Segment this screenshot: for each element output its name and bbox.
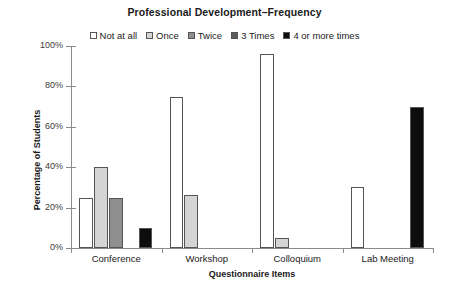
legend-label: 3 Times [241, 30, 274, 41]
bar [410, 107, 424, 248]
bar [139, 228, 153, 248]
legend-label: Not at all [100, 30, 138, 41]
y-tick-label: 20% [45, 202, 63, 212]
bar [275, 238, 289, 248]
chart-legend: Not at allOnceTwice3 Times4 or more time… [0, 30, 449, 41]
y-tick-label: 100% [40, 40, 63, 50]
legend-swatch-icon [90, 32, 97, 39]
x-category-label: Conference [71, 253, 162, 264]
x-category-label: Colloquium [252, 253, 343, 264]
bar [170, 97, 184, 249]
y-tick-mark [66, 208, 76, 209]
legend-swatch-icon [146, 32, 153, 39]
legend-item[interactable]: 3 Times [231, 30, 274, 41]
legend-label: Once [156, 30, 179, 41]
y-tick-label: 0% [50, 242, 63, 252]
chart-title: Professional Development–Frequency [0, 6, 449, 18]
bar [351, 187, 365, 248]
bar [260, 54, 274, 248]
x-category-label: Workshop [162, 253, 253, 264]
bar [184, 195, 198, 248]
bar [94, 167, 108, 248]
legend-label: Twice [198, 30, 222, 41]
bar [109, 198, 123, 249]
y-tick-mark [66, 127, 76, 128]
x-tick-mark [433, 248, 434, 253]
chart-figure: Professional Development–Frequency Not a… [0, 0, 449, 298]
legend-item[interactable]: 4 or more times [283, 30, 359, 41]
plot-area: 0%20%40%60%80%100% [71, 46, 433, 249]
legend-item[interactable]: Twice [188, 30, 222, 41]
x-axis-title: Questionnaire Items [71, 269, 433, 279]
y-tick-mark [66, 86, 76, 87]
y-tick-mark [66, 46, 76, 47]
y-tick-mark [66, 167, 76, 168]
legend-label: 4 or more times [293, 30, 359, 41]
y-tick-label: 80% [45, 80, 63, 90]
y-axis-line [71, 46, 72, 249]
y-tick-label: 40% [45, 161, 63, 171]
bar [79, 198, 93, 249]
legend-item[interactable]: Not at all [90, 30, 138, 41]
x-category-label: Lab Meeting [343, 253, 434, 264]
legend-swatch-icon [231, 32, 238, 39]
legend-swatch-icon [188, 32, 195, 39]
y-tick-label: 60% [45, 121, 63, 131]
legend-item[interactable]: Once [146, 30, 179, 41]
y-axis-title: Percentage of Students [32, 80, 42, 240]
legend-swatch-icon [283, 32, 290, 39]
